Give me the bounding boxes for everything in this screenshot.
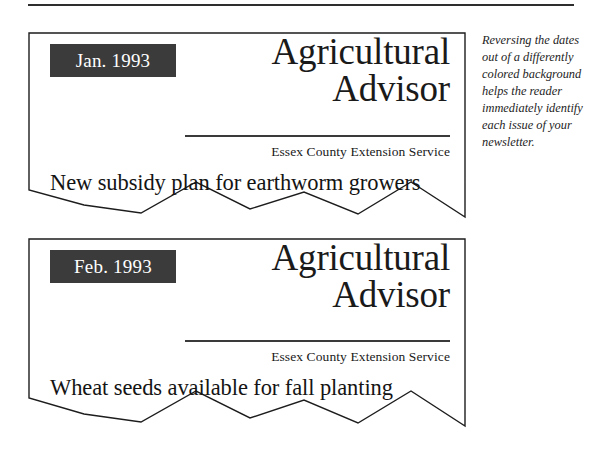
lead-headline: New subsidy plan for earthworm growers <box>50 170 450 196</box>
nameplate-content: Feb. 1993 Agricultural Advisor Essex Cou… <box>28 228 468 433</box>
organization-tagline: Essex County Extension Service <box>150 144 450 160</box>
masthead-divider-rule <box>185 340 450 342</box>
masthead-divider-rule <box>185 135 450 137</box>
newsletter-nameplate-sample-1: Jan. 1993 Agricultural Advisor Essex Cou… <box>28 22 468 222</box>
organization-tagline: Essex County Extension Service <box>150 349 450 365</box>
masthead-line-1: Agricultural <box>272 237 450 278</box>
page-top-rule <box>28 4 574 6</box>
masthead-line-1: Agricultural <box>272 31 450 72</box>
nameplate-content: Jan. 1993 Agricultural Advisor Essex Cou… <box>28 22 468 222</box>
masthead-line-2: Advisor <box>150 277 450 314</box>
masthead-line-2: Advisor <box>150 71 450 108</box>
scanned-page: Jan. 1993 Agricultural Advisor Essex Cou… <box>0 0 601 458</box>
margin-caption: Reversing the dates out of a differently… <box>482 32 586 151</box>
masthead-title: Agricultural Advisor <box>150 240 450 313</box>
newsletter-nameplate-sample-2: Feb. 1993 Agricultural Advisor Essex Cou… <box>28 228 468 433</box>
masthead-title: Agricultural Advisor <box>150 34 450 107</box>
lead-headline: Wheat seeds available for fall planting <box>50 375 450 401</box>
